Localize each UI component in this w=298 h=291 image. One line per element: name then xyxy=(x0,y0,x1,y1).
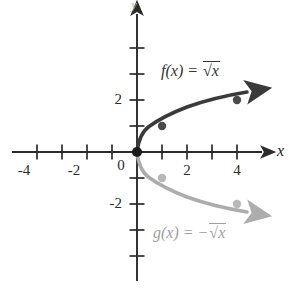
curve-g-neg-sqrt-x xyxy=(137,152,247,212)
point-f-1-1 xyxy=(158,122,166,130)
function-label-f-radicand: x xyxy=(212,62,219,79)
curve-f-sqrt-x xyxy=(137,92,247,152)
x-axis-name: x xyxy=(277,143,284,159)
point-g-1-neg1 xyxy=(158,174,166,182)
point-f-4-2 xyxy=(233,96,241,104)
x-tick-label-neg4: -4 xyxy=(11,163,37,178)
function-label-g: g(x) = −√x xyxy=(153,225,226,241)
y-tick-label-neg2: -2 xyxy=(96,196,122,211)
coordinate-plot xyxy=(0,0,298,291)
math-figure: x y -4 -2 2 4 0 2 -2 f(x) = √x g(x) = −√… xyxy=(0,0,298,291)
function-label-f: f(x) = √x xyxy=(161,63,220,79)
y-axis-name: y xyxy=(131,0,137,11)
function-label-g-prefix: g(x) = − xyxy=(153,224,208,241)
point-origin xyxy=(132,147,142,157)
function-label-f-radical: √x xyxy=(203,61,220,79)
y-tick-label-2: 2 xyxy=(104,92,122,107)
function-label-f-prefix: f(x) = xyxy=(161,62,202,79)
function-label-g-radical: √x xyxy=(209,223,226,241)
x-tick-label-2: 2 xyxy=(174,163,200,178)
function-label-g-radicand: x xyxy=(218,224,225,241)
point-g-4-neg2 xyxy=(233,200,241,208)
x-tick-label-neg2: -2 xyxy=(61,163,87,178)
origin-label: 0 xyxy=(113,158,129,173)
x-tick-label-4: 4 xyxy=(224,163,250,178)
